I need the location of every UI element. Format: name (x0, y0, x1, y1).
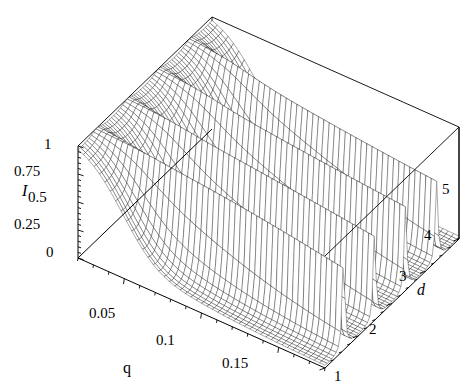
d-axis-tick-label-3: 4 (424, 228, 432, 243)
i-axis-tick-label-4: 0 (46, 245, 54, 260)
i-axis-title: I (22, 183, 27, 199)
i-axis-tick-label-3: 0.25 (14, 217, 40, 232)
d-axis-tick-label-1: 2 (369, 322, 377, 337)
surface-mesh (78, 20, 459, 365)
surface-plot-figure: 10.750.50.250 0.050.10.15 12345 Iqd (0, 0, 469, 392)
q-axis-tick-label-0: 0.05 (89, 306, 115, 321)
q-axis-tick-label-1: 0.1 (156, 333, 175, 348)
d-axis-tick-label-0: 1 (334, 369, 342, 384)
d-axis-tick-label-4: 5 (442, 182, 450, 197)
d-axis-title: d (417, 282, 425, 298)
d-axis-tick-label-2: 3 (399, 269, 407, 284)
i-axis-tick-label-0: 1 (44, 137, 52, 152)
q-axis-tick-label-2: 0.15 (222, 356, 248, 371)
q-axis-title: q (123, 360, 131, 376)
surface-wireframe-canvas (0, 0, 469, 392)
i-axis-tick-label-1: 0.75 (14, 164, 40, 179)
i-axis-tick-label-2: 0.5 (28, 190, 47, 205)
